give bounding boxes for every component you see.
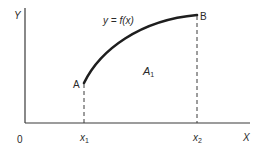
x2-label-subscript: 2	[198, 137, 202, 144]
area-label: A1	[142, 65, 154, 78]
x-axis-label: X	[242, 132, 250, 143]
origin-label: 0	[17, 134, 23, 145]
area-label-subscript: 1	[150, 71, 154, 78]
curve-y-equals-f-of-x	[84, 15, 197, 83]
curve-label: y = f(x)	[102, 15, 134, 26]
x1-label: x1	[79, 132, 89, 144]
area-label-main: A	[142, 65, 150, 77]
point-a-label: A	[73, 79, 80, 90]
area-under-curve-diagram: Y y = f(x) B A A1 0 x1 x2 X	[0, 0, 267, 147]
point-b-label: B	[200, 11, 207, 22]
y-axis-label: Y	[14, 10, 22, 21]
x1-label-subscript: 1	[85, 137, 89, 144]
x2-label: x2	[192, 132, 202, 144]
